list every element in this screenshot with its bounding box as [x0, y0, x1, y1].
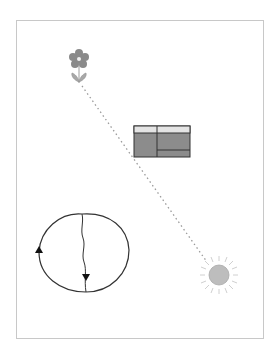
diagram-canvas — [0, 0, 277, 353]
table-box — [134, 126, 190, 157]
